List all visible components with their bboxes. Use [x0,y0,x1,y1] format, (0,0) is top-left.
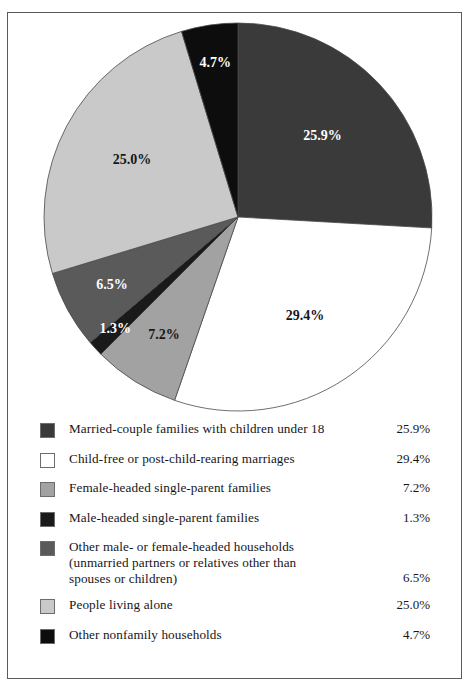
legend-percent: 29.4% [382,451,430,467]
pie-slice[interactable] [238,23,432,228]
pie-slice-label: 29.4% [286,308,325,323]
legend-label-line3: spouses or children) [69,571,382,587]
legend-percent: 25.9% [382,421,430,437]
pie-slice-group [44,23,432,411]
legend-swatch-icon [40,482,55,497]
legend-item[interactable]: Female-headed single-parent families 7.2… [40,480,430,497]
legend-label: People living alone [55,597,382,613]
pie-slice-label: 6.5% [96,277,128,292]
pie-slice-label: 1.3% [100,321,132,336]
legend-swatch-icon [40,599,55,614]
legend-swatch-icon [40,423,55,438]
pie-chart-svg: 25.9%29.4%7.2%1.3%6.5%25.0%4.7% [0,0,470,418]
pie-slice-label: 25.0% [113,152,152,167]
legend-swatch-icon [40,541,55,556]
legend-percent: 6.5% [382,570,430,586]
legend-swatch-icon [40,453,55,468]
legend-item[interactable]: Other nonfamily households 4.7% [40,627,430,644]
legend-swatch-icon [40,512,55,527]
legend-item[interactable]: People living alone 25.0% [40,597,430,614]
pie-chart: 25.9%29.4%7.2%1.3%6.5%25.0%4.7% [0,0,470,418]
figure-page: 25.9%29.4%7.2%1.3%6.5%25.0%4.7% Married-… [0,0,470,690]
legend-item[interactable]: Male-headed single-parent families 1.3% [40,510,430,527]
legend-label: Male-headed single-parent families [55,510,382,526]
legend-item[interactable]: Other male- or female-headed households … [40,539,430,586]
legend-label: Child-free or post-child-rearing marriag… [55,451,382,467]
legend-item[interactable]: Child-free or post-child-rearing marriag… [40,451,430,468]
pie-slice-label: 7.2% [148,327,180,342]
legend-label-line1: Other male- or female-headed households [69,539,294,554]
legend-label: Other male- or female-headed households … [55,539,382,586]
pie-slice-label: 4.7% [199,55,231,70]
pie-slice-label: 25.9% [303,128,342,143]
legend-percent: 4.7% [382,627,430,643]
legend-swatch-icon [40,629,55,644]
chart-legend: Married-couple families with children un… [40,421,430,644]
legend-label: Other nonfamily households [55,627,382,643]
legend-label-line2: (unmarried partners or relatives other t… [69,555,382,571]
legend-item[interactable]: Married-couple families with children un… [40,421,430,438]
legend-percent: 1.3% [382,510,430,526]
legend-percent: 25.0% [382,597,430,613]
legend-percent: 7.2% [382,480,430,496]
legend-label: Female-headed single-parent families [55,480,382,496]
legend-label: Married-couple families with children un… [55,421,382,437]
